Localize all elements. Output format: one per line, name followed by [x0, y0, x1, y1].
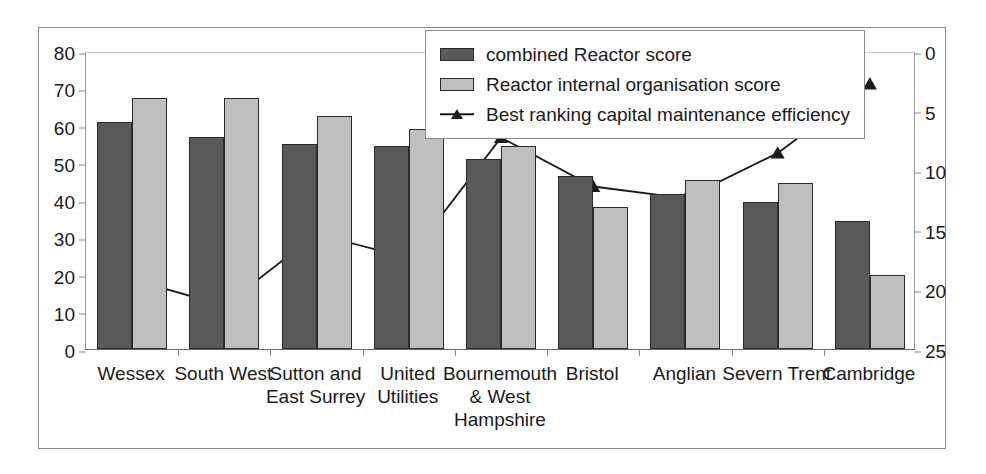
y-axis-right-tick: 5	[914, 103, 936, 122]
x-axis-tick	[178, 349, 179, 356]
bar	[501, 146, 536, 349]
line-marker-triangle	[771, 146, 785, 158]
x-axis-tick	[824, 349, 825, 356]
y-axis-left-tick: 50	[54, 155, 86, 174]
legend-item-best-ranking-efficiency: Best ranking capital maintenance efficie…	[440, 99, 850, 129]
legend-label: Reactor internal organisation score	[486, 75, 781, 94]
y-axis-left-tick: 40	[54, 193, 86, 212]
bar	[778, 183, 813, 349]
x-axis-tick	[363, 349, 364, 356]
y-axis-left-tick: 80	[54, 44, 86, 63]
x-axis-tick	[455, 349, 456, 356]
legend-item-combined-reactor-score: combined Reactor score	[440, 39, 850, 69]
y-axis-right-tick: 0	[914, 44, 936, 63]
y-axis-left-tick: 30	[54, 230, 86, 249]
bar	[97, 122, 132, 349]
x-axis-tick	[639, 349, 640, 356]
bar	[835, 221, 870, 350]
y-axis-left-tick: 60	[54, 118, 86, 137]
y-axis-right-tick: 20	[914, 282, 946, 301]
bar	[743, 202, 778, 349]
chart-figure: 010203040506070800510152025 combined Rea…	[0, 0, 986, 474]
legend-label: Best ranking capital maintenance efficie…	[486, 105, 850, 124]
bar	[132, 98, 167, 349]
y-axis-left-tick: 10	[54, 304, 86, 323]
x-axis-tick	[270, 349, 271, 356]
bar	[466, 159, 501, 349]
bar	[558, 176, 593, 349]
bar	[317, 116, 352, 349]
y-axis-left-tick: 0	[64, 342, 86, 361]
bar	[409, 129, 444, 349]
y-axis-right-tick: 15	[914, 222, 946, 241]
light-swatch-icon	[440, 78, 474, 91]
bar	[593, 207, 628, 349]
x-axis-tick	[547, 349, 548, 356]
y-axis-left-tick: 70	[54, 81, 86, 100]
bar	[282, 144, 317, 349]
dark-swatch-icon	[440, 48, 474, 61]
bar	[870, 275, 905, 350]
legend-item-internal-organisation-score: Reactor internal organisation score	[440, 69, 850, 99]
legend-label: combined Reactor score	[486, 45, 692, 64]
bar	[224, 98, 259, 349]
y-axis-left-tick: 20	[54, 267, 86, 286]
y-axis-right-tick: 10	[914, 163, 946, 182]
bar	[189, 137, 224, 349]
bar	[650, 194, 685, 349]
x-axis-category-label: Cambridge	[811, 362, 927, 385]
line-triangle-icon	[440, 108, 474, 121]
chart-legend: combined Reactor score Reactor internal …	[425, 30, 865, 139]
bar	[374, 146, 409, 349]
bar	[685, 180, 720, 349]
x-axis-tick	[732, 349, 733, 356]
y-axis-right-tick: 25	[914, 342, 946, 361]
